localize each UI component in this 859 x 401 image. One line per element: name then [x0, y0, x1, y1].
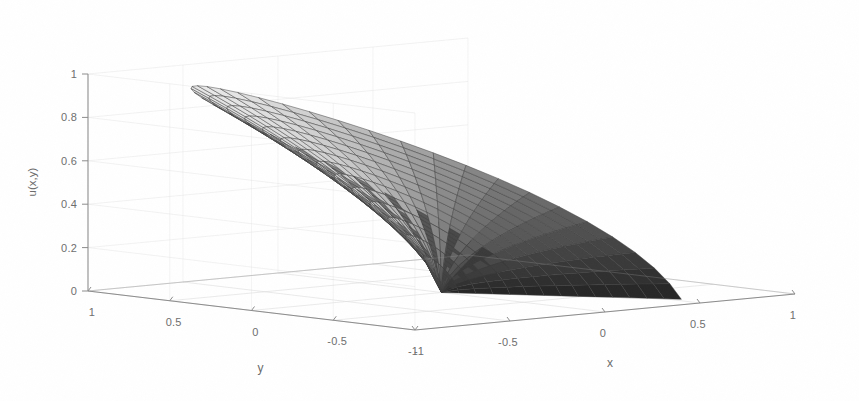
figure-canvas: u(x,y) x y 00.20.40.60.8110.50-0.5-1-1-0… — [0, 0, 859, 401]
x-tick-label: 0 — [600, 327, 606, 339]
x-tick-label: 1 — [790, 309, 796, 321]
z-tick-label: 1 — [71, 68, 77, 80]
x-tick-label: 0.5 — [690, 318, 706, 330]
y-tick-label: 0.5 — [166, 316, 182, 328]
z-tick-label: 0.8 — [61, 111, 77, 123]
z-tick-label: 0.4 — [61, 198, 77, 210]
paper-grain — [0, 0, 859, 401]
x-tick-label: -1 — [408, 345, 418, 357]
surface-plot-svg — [0, 0, 859, 401]
y-tick-label: 0 — [252, 326, 258, 338]
z-tick-label: 0.6 — [61, 155, 77, 167]
y-tick-label: 1 — [89, 306, 95, 318]
x-tick-label: -0.5 — [498, 336, 518, 348]
z-tick-label: 0 — [71, 285, 77, 297]
y-tick-label: -0.5 — [327, 335, 347, 347]
z-tick-label: 0.2 — [61, 242, 77, 254]
x-axis-title: x — [607, 356, 613, 370]
z-axis-title: u(x,y) — [26, 168, 38, 197]
y-axis-title: y — [258, 361, 264, 375]
